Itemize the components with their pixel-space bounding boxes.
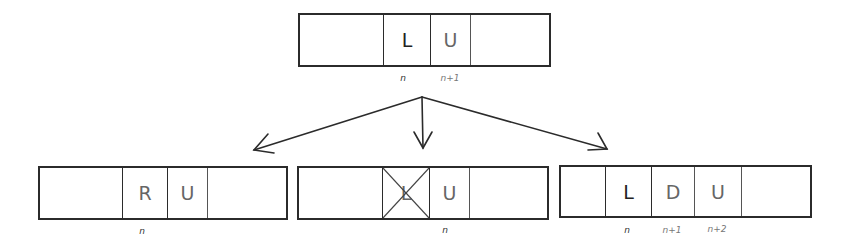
right-label-n: n [624,225,630,235]
middle-cell-3 [470,168,547,218]
right-cell-2: D [652,167,695,216]
right-branch-tape: L D U [559,165,812,218]
right-cell-3: U [695,167,742,216]
middle-cell-2: U [430,168,470,218]
left-cell-2: U [168,168,208,218]
left-branch-tape: R U [38,166,288,220]
crossed-letter: L [401,182,412,204]
right-label-n-plus-2: n+2 [708,224,727,234]
right-cell-0 [561,167,606,216]
left-label-n: n [139,226,145,236]
middle-branch-tape: L U [297,166,549,220]
middle-label-n: n [442,225,448,235]
middle-cell-0 [299,168,383,218]
right-cell-1: L [606,167,652,216]
right-label-n-plus-1: n+1 [663,225,682,235]
middle-cell-1-crossed: L [383,168,430,218]
left-cell-1: R [123,168,168,218]
left-cell-0 [40,168,123,218]
left-cell-3 [208,168,286,218]
right-cell-4 [742,167,810,216]
